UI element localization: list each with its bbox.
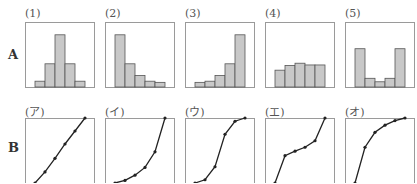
histogram-bar: [195, 82, 205, 87]
data-point: [83, 116, 86, 119]
histogram-bar: [225, 64, 235, 87]
histogram-bar: [295, 63, 305, 87]
histogram-bar: [55, 35, 65, 87]
cumulative-line: [275, 118, 325, 183]
cumulative-line-panel: [345, 118, 415, 183]
cumulative-line: [355, 118, 405, 183]
panel-label: (2): [105, 7, 121, 20]
data-point: [63, 142, 66, 145]
data-point: [113, 181, 116, 183]
cumulative-line: [115, 118, 165, 183]
data-point: [303, 146, 306, 149]
histogram-panel: [25, 22, 95, 88]
data-point: [383, 124, 386, 127]
histogram-bar: [215, 75, 225, 87]
data-point: [313, 139, 316, 142]
panel-label: (エ): [265, 103, 285, 119]
data-point: [153, 150, 156, 153]
panel-label: (1): [25, 7, 41, 20]
histogram-panel: [345, 22, 415, 88]
data-point: [223, 133, 226, 136]
data-point: [403, 116, 406, 119]
histogram-panel: [185, 22, 255, 88]
panel-label: (ア): [25, 103, 45, 119]
histogram-panel: [265, 22, 335, 88]
histogram-bar: [75, 81, 85, 87]
histogram-bar: [355, 49, 365, 87]
data-point: [163, 116, 166, 119]
data-point: [243, 116, 246, 119]
data-point: [323, 116, 326, 119]
histogram-bar: [125, 64, 135, 87]
data-point: [73, 129, 76, 132]
histogram-bar: [275, 70, 285, 87]
cumulative-line: [35, 118, 85, 183]
histogram-bar: [115, 35, 125, 87]
data-point: [133, 174, 136, 177]
cumulative-line-panel: [265, 118, 335, 183]
cumulative-line-panel: [25, 118, 95, 183]
data-point: [363, 146, 366, 149]
cumulative-line-panel: [185, 118, 255, 183]
panel-label: (ウ): [185, 103, 205, 119]
histogram-bar: [145, 81, 155, 87]
histogram-panel: [105, 22, 175, 88]
data-point: [353, 181, 356, 183]
data-point: [293, 150, 296, 153]
histogram-bar: [155, 82, 165, 87]
data-point: [193, 181, 196, 183]
data-point: [373, 131, 376, 134]
data-point: [393, 119, 396, 122]
histogram-bar: [135, 75, 145, 87]
data-point: [213, 165, 216, 168]
histogram-bar: [205, 81, 215, 87]
cumulative-line: [195, 118, 245, 183]
histogram-bar: [395, 49, 405, 87]
histogram-bar: [305, 65, 315, 87]
histogram-bar: [385, 78, 395, 87]
data-point: [203, 178, 206, 181]
cumulative-line-panel: [105, 118, 175, 183]
histogram-bar: [285, 66, 295, 87]
panel-label: (イ): [105, 103, 125, 119]
panel-frame: [106, 119, 175, 184]
histogram-bar: [35, 81, 45, 87]
histogram-bar: [45, 64, 55, 87]
panel-label: (5): [345, 7, 361, 20]
histogram-bar: [235, 35, 245, 87]
row-label-a: A: [8, 47, 18, 62]
data-point: [233, 120, 236, 123]
histogram-bar: [315, 65, 325, 87]
panel-frame: [266, 119, 335, 184]
data-point: [143, 166, 146, 169]
data-point: [53, 157, 56, 160]
data-point: [283, 154, 286, 157]
histogram-bar: [375, 82, 385, 87]
panel-label: (4): [265, 7, 281, 20]
panel-label: (オ): [345, 103, 365, 119]
histogram-bar: [65, 64, 75, 87]
panel-label: (3): [185, 7, 201, 20]
data-point: [123, 179, 126, 182]
data-point: [43, 170, 46, 173]
histogram-bar: [365, 78, 375, 87]
row-label-b: B: [8, 140, 19, 155]
